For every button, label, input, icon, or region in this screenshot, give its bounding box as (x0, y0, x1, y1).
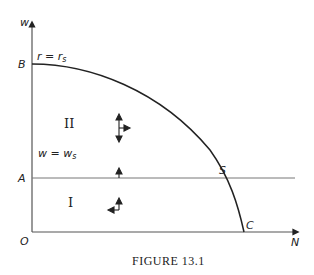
y-axis-label: w (20, 16, 29, 29)
phase-diagram: w N O B A S C r = rs w = ws II I FIGURE … (0, 0, 314, 275)
region-ii-direction-arrows-icon (116, 114, 130, 142)
point-a-label: A (17, 172, 26, 185)
region-ii-label: II (64, 116, 74, 131)
curve-label: r = rs (37, 50, 66, 64)
region-i-label: I (68, 195, 73, 210)
region-i-direction-arrows-icon (108, 198, 122, 213)
line-label: w = ws (38, 147, 76, 161)
figure-caption: FIGURE 13.1 (132, 254, 205, 268)
point-b-label: B (18, 58, 26, 71)
point-c-label: C (246, 219, 254, 232)
x-axis-label: N (291, 236, 299, 249)
point-s-label: S (219, 164, 226, 177)
line-a-up-arrow-icon (116, 168, 122, 178)
origin-label: O (20, 235, 29, 248)
